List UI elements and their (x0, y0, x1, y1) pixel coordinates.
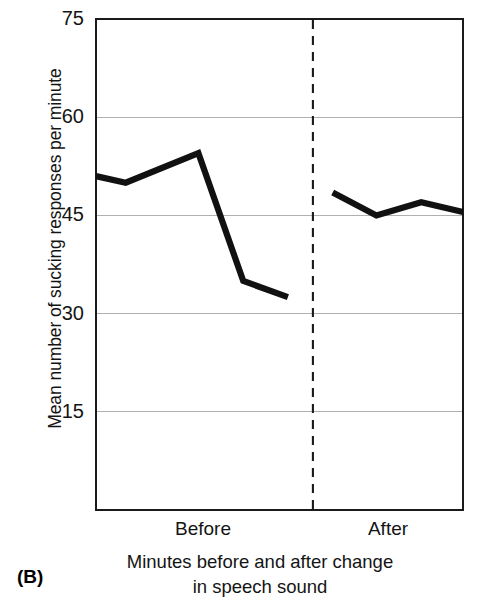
x-axis-title: Minutes before and after change in speec… (60, 549, 460, 599)
y-tick-label-45: 45 (38, 204, 84, 224)
y-tick-label-15: 15 (38, 401, 84, 421)
figure-panel-b: Mean number of sucking responses per min… (0, 0, 481, 604)
x-section-label-before: Before (143, 518, 263, 540)
panel-letter: (B) (17, 566, 43, 588)
plot-svg (95, 18, 464, 512)
y-tick-label-30: 30 (38, 303, 84, 323)
series-line-after (333, 193, 463, 216)
x-axis-title-line-1: Minutes before and after change (60, 549, 460, 574)
y-tick-label-75: 75 (38, 8, 84, 28)
x-axis-title-line-2: in speech sound (60, 574, 460, 599)
plot-area (95, 18, 464, 512)
gridlines (95, 117, 464, 412)
y-axis-tick-labels: 75 60 45 30 15 (30, 0, 84, 604)
x-section-label-after: After (330, 518, 446, 540)
y-tick-label-60: 60 (38, 106, 84, 126)
series-line-before (96, 153, 288, 297)
